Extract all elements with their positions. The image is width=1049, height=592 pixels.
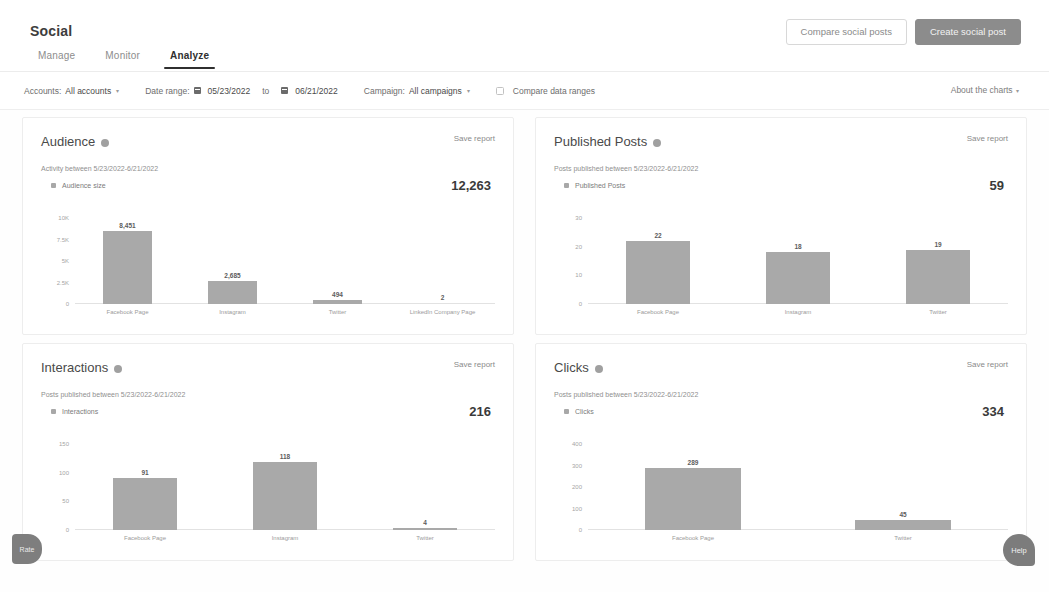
bar[interactable] (393, 528, 457, 530)
legend-label: Published Posts (575, 182, 625, 189)
x-axis-tick-label: Instagram (180, 309, 285, 315)
y-axis-tick-label: 100 (572, 506, 582, 512)
x-axis-tick-label: Facebook Page (75, 309, 180, 315)
tab-monitor[interactable]: Monitor (105, 50, 140, 69)
bar-group: 8,451Facebook Page (75, 218, 180, 304)
about-the-charts-dropdown[interactable]: About the charts ▾ (951, 85, 1019, 95)
card-title-interactions: Interactions (41, 360, 122, 375)
x-axis-tick-label: Twitter (798, 535, 1008, 541)
date-from-input[interactable]: 05/23/2022 (208, 86, 251, 96)
y-axis-tick-label: 7.5K (57, 237, 69, 243)
campaign-value[interactable]: All campaigns (409, 86, 462, 96)
y-axis-tick-label: 10K (58, 215, 69, 221)
card-title-text: Clicks (554, 360, 589, 375)
chart-legend: Interactions (41, 408, 98, 415)
x-axis-tick-label: Instagram (728, 309, 868, 315)
card-title-text: Published Posts (554, 134, 647, 149)
bar[interactable] (766, 252, 830, 304)
compare-data-ranges-checkbox[interactable]: Compare data ranges (496, 86, 595, 96)
save-report-button[interactable]: Save report (454, 134, 495, 143)
chart-plot-area: 010203022Facebook Page18Instagram19Twitt… (588, 218, 1008, 304)
bar[interactable] (103, 231, 151, 304)
card-subtitle: Posts published between 5/23/2022-6/21/2… (41, 391, 495, 398)
date-to-label: to (262, 86, 269, 96)
bar-group: 22Facebook Page (588, 218, 728, 304)
compare-data-ranges-label: Compare data ranges (513, 86, 595, 96)
card-title-text: Interactions (41, 360, 108, 375)
campaign-filter[interactable]: Campaign: All campaigns ▾ (364, 86, 470, 96)
bar-value-label: 4 (423, 519, 427, 526)
x-axis-tick-label: LinkedIn Company Page (390, 309, 495, 315)
date-to-input[interactable]: 06/21/2022 (295, 86, 338, 96)
about-the-charts-label: About the charts (951, 85, 1013, 95)
x-axis-tick-label: Instagram (215, 535, 355, 541)
y-axis-tick-label: 0 (66, 527, 69, 533)
y-axis-tick-label: 0 (579, 301, 582, 307)
checkbox-icon[interactable] (496, 87, 504, 95)
bar[interactable] (313, 300, 361, 304)
report-cards-grid: Audience Save report Activity between 5/… (22, 117, 1027, 569)
card-total-value: 216 (469, 404, 491, 419)
y-axis-tick-label: 0 (579, 527, 582, 533)
accounts-value[interactable]: All accounts (65, 86, 111, 96)
bar-group: 2,685Instagram (180, 218, 285, 304)
bar-value-label: 8,451 (119, 222, 135, 229)
filter-bar: Accounts: All accounts ▾ Date range: 05/… (0, 72, 1049, 109)
accounts-filter[interactable]: Accounts: All accounts ▾ (24, 86, 119, 96)
tab-analyze[interactable]: Analyze (170, 50, 209, 69)
save-report-button[interactable]: Save report (967, 134, 1008, 143)
social-analytics-page: Social Compare social posts Create socia… (0, 0, 1049, 592)
calendar-icon (194, 87, 201, 94)
card-title-clicks: Clicks (554, 360, 603, 375)
bar[interactable] (113, 478, 177, 530)
rate-widget-button[interactable]: Rate (12, 534, 42, 564)
bar-value-label: 2,685 (224, 272, 240, 279)
bar[interactable] (906, 250, 970, 304)
card-total-value: 59 (990, 178, 1004, 193)
y-axis-tick-label: 10 (575, 272, 582, 278)
chart-legend: Clicks (554, 408, 594, 415)
filter-divider (0, 109, 1049, 110)
save-report-button[interactable]: Save report (967, 360, 1008, 369)
bar[interactable] (645, 468, 742, 530)
card-clicks: Clicks Save report Posts published betwe… (535, 343, 1027, 561)
chart-plot-area: 02.5K5K7.5K10K8,451Facebook Page2,685Ins… (75, 218, 495, 304)
bar-group: 2LinkedIn Company Page (390, 218, 495, 304)
card-published-posts: Published Posts Save report Posts publis… (535, 117, 1027, 335)
date-range-label: Date range: (145, 86, 189, 96)
bar-value-label: 91 (141, 469, 148, 476)
create-social-post-button[interactable]: Create social post (915, 19, 1021, 45)
help-button[interactable]: Help (1003, 534, 1035, 566)
page-title: Social (30, 23, 72, 39)
info-icon[interactable] (653, 139, 661, 147)
campaign-label: Campaign: (364, 86, 405, 96)
info-icon[interactable] (101, 139, 109, 147)
y-axis-tick-label: 20 (575, 244, 582, 250)
card-subtitle: Posts published between 5/23/2022-6/21/2… (554, 391, 1008, 398)
bar-series: 91Facebook Page118Instagram4Twitter (75, 444, 495, 530)
y-axis-tick-label: 2.5K (57, 280, 69, 286)
info-icon[interactable] (595, 365, 603, 373)
bar-value-label: 18 (794, 243, 801, 250)
chart-published-posts: 010203022Facebook Page18Instagram19Twitt… (554, 214, 1012, 326)
card-header: Audience Save report (41, 134, 495, 149)
card-header: Published Posts Save report (554, 134, 1008, 149)
info-icon[interactable] (114, 365, 122, 373)
bar[interactable] (855, 520, 952, 530)
compare-social-posts-button[interactable]: Compare social posts (786, 19, 907, 45)
legend-label: Clicks (575, 408, 594, 415)
x-axis-tick-label: Facebook Page (588, 535, 798, 541)
save-report-button[interactable]: Save report (454, 360, 495, 369)
card-legend-row: Published Posts 59 (554, 178, 1008, 193)
bar[interactable] (418, 303, 466, 304)
bar-group: 45Twitter (798, 444, 1008, 530)
date-range-filter[interactable]: Date range: 05/23/2022 to 06/21/2022 (145, 86, 338, 96)
card-total-value: 12,263 (451, 178, 491, 193)
bar[interactable] (208, 281, 256, 304)
bar-series: 22Facebook Page18Instagram19Twitter (588, 218, 1008, 304)
y-axis-tick-label: 50 (62, 498, 69, 504)
bar[interactable] (253, 462, 317, 530)
bar[interactable] (626, 241, 690, 304)
tab-manage[interactable]: Manage (38, 50, 75, 69)
accounts-label: Accounts: (24, 86, 61, 96)
